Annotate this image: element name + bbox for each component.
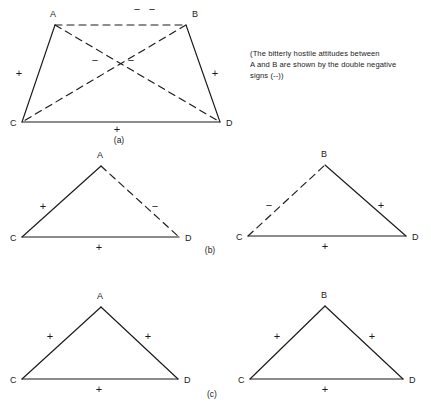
panel-caption-c: (c) — [207, 389, 217, 399]
vertex-label-C: C — [238, 375, 245, 385]
panel-caption-b: (b) — [205, 245, 216, 255]
edge-B-D-solid — [325, 165, 406, 236]
edge-sign-C-D: + — [322, 240, 328, 252]
edge-sign-A-D: − — [152, 200, 158, 212]
edge-A-C-solid — [22, 25, 55, 122]
panel-c-left: +++ACD — [10, 291, 191, 395]
edge-sign-C-B: − — [266, 199, 272, 211]
edge-sign-C-A: + — [40, 200, 46, 212]
vertex-label-B: B — [192, 9, 198, 19]
caption-note: (The bitterly hostile attitudes between … — [250, 48, 426, 81]
edge-C-A-solid — [22, 307, 101, 379]
edge-sign-B-D: + — [212, 67, 218, 79]
caption-line-1: (The bitterly hostile attitudes between — [250, 48, 426, 59]
edge-sign-B-D: + — [378, 199, 384, 211]
vertex-label-D: D — [185, 233, 192, 243]
edge-sign-B-C: − — [92, 54, 98, 66]
edge-C-B-solid — [250, 306, 325, 379]
panel-b-left: +−+ACD — [10, 150, 192, 253]
edge-sign-C-A: + — [47, 330, 53, 342]
panel-b: (b) — [205, 245, 216, 255]
edge-sign-B-D: + — [369, 330, 375, 342]
edge-A-D-solid — [101, 307, 178, 379]
edge-sign-C-D: + — [114, 123, 120, 135]
panel-c-right: +++BCD — [238, 290, 416, 395]
edge-C-A-solid — [22, 166, 101, 237]
edge-sign-C-D: + — [96, 383, 102, 395]
panel-caption-a: (a) — [114, 135, 125, 145]
edge-A-D-dashed — [101, 166, 179, 237]
panel-c: (c) — [207, 389, 217, 399]
vertex-label-C: C — [236, 232, 243, 242]
vertex-label-A: A — [97, 291, 103, 301]
edge-A-D-dashed — [55, 25, 220, 122]
edge-sign-A-B: − — [149, 3, 155, 15]
vertex-label-D: D — [184, 375, 191, 385]
edge-C-B-dashed — [248, 165, 325, 236]
caption-line-2: A and B are shown by the double negative — [250, 59, 426, 70]
vertex-label-D: D — [412, 232, 419, 242]
caption-line-3: signs (--)) — [250, 70, 426, 81]
panel-b-right: −++BCD — [236, 149, 419, 252]
figure-root: −−+++−−ABCD(a)+−+ACD−++BCD(b)+++ACD+++BC… — [0, 0, 431, 415]
edge-sign-A-D: − — [128, 54, 134, 66]
panel-a: −−+++−−ABCD(a) — [10, 3, 233, 145]
edge-sign-A-B: − — [134, 3, 140, 15]
vertex-label-C: C — [10, 118, 17, 128]
vertex-label-A: A — [97, 150, 103, 160]
edge-B-D-solid — [325, 306, 403, 379]
edge-sign-A-C: + — [16, 67, 22, 79]
vertex-label-D: D — [409, 375, 416, 385]
edge-B-C-dashed — [22, 25, 186, 122]
vertex-label-B: B — [321, 290, 327, 300]
edge-sign-C-B: + — [274, 330, 280, 342]
vertex-label-D: D — [226, 118, 233, 128]
vertex-label-B: B — [321, 149, 327, 159]
vertex-label-A: A — [50, 9, 56, 19]
vertex-label-C: C — [10, 375, 17, 385]
edge-sign-C-D: + — [96, 241, 102, 253]
vertex-label-C: C — [10, 233, 17, 243]
edge-sign-A-D: + — [145, 330, 151, 342]
edge-sign-C-D: + — [322, 383, 328, 395]
